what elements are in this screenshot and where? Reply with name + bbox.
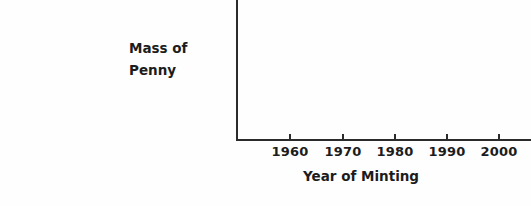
x-tick-mark-1980 bbox=[394, 134, 396, 141]
x-axis-title: Year of Minting bbox=[303, 168, 419, 184]
x-tick-label-1: 1960 bbox=[260, 144, 320, 159]
x-tick-mark-1990 bbox=[446, 134, 448, 141]
chart-canvas: Mass of Penny 1960 1970 1980 1990 2000 Y… bbox=[0, 0, 531, 206]
plot-area[interactable] bbox=[238, 0, 531, 139]
clipped-footer-text bbox=[0, 198, 531, 206]
x-tick-mark-1970 bbox=[342, 134, 344, 141]
x-tick-label-3: 1980 bbox=[365, 144, 425, 159]
y-axis-title: Mass of Penny bbox=[129, 37, 187, 81]
x-tick-mark-2000 bbox=[498, 134, 500, 141]
x-tick-label-4: 1990 bbox=[417, 144, 477, 159]
x-tick-mark-1960 bbox=[289, 134, 291, 141]
y-axis-title-line-2: Penny bbox=[129, 59, 187, 81]
y-axis-title-line-1: Mass of bbox=[129, 37, 187, 59]
x-tick-label-2: 1970 bbox=[313, 144, 373, 159]
chart-screenshot: Mass of Penny 1960 1970 1980 1990 2000 Y… bbox=[0, 0, 531, 206]
x-tick-label-5: 2000 bbox=[469, 144, 529, 159]
x-axis-line bbox=[236, 139, 531, 141]
